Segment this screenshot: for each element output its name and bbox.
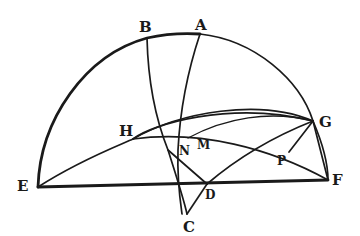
label-D: D bbox=[205, 188, 215, 202]
arc-M-G bbox=[188, 116, 313, 138]
base-line-EF bbox=[38, 180, 328, 187]
geometry-diagram: B A G H N M P E F D C bbox=[0, 0, 360, 236]
label-E: E bbox=[17, 177, 28, 195]
arc-B-C bbox=[147, 38, 187, 214]
label-P: P bbox=[277, 154, 286, 168]
outer-arc-left bbox=[38, 34, 200, 187]
label-C: C bbox=[183, 218, 195, 236]
label-G: G bbox=[319, 113, 332, 131]
arc-A-D bbox=[178, 34, 200, 214]
arc-H-M-F bbox=[133, 137, 328, 180]
line-D-G bbox=[207, 121, 313, 184]
outer-arc-right bbox=[200, 34, 328, 180]
label-M: M bbox=[197, 138, 210, 152]
label-A: A bbox=[194, 16, 207, 34]
label-B: B bbox=[139, 18, 152, 36]
label-F: F bbox=[332, 171, 343, 189]
label-H: H bbox=[119, 122, 133, 140]
label-N: N bbox=[179, 144, 190, 158]
line-C-D bbox=[187, 184, 207, 214]
